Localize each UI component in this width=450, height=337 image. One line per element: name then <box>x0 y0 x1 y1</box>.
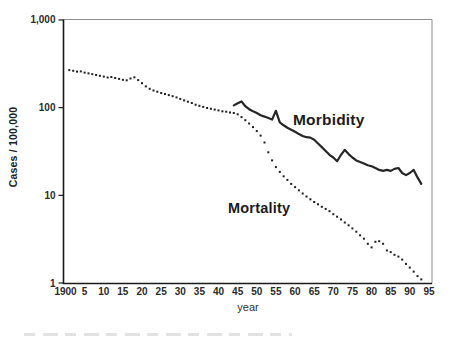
axis-lines <box>64 20 433 284</box>
mortality-dot <box>110 76 112 78</box>
mortality-dot <box>233 112 235 114</box>
mortality-dot <box>275 166 277 168</box>
mortality-dot <box>141 82 143 84</box>
mortality-dot <box>371 246 373 248</box>
mortality-dot <box>271 159 273 161</box>
mortality-dot <box>382 243 384 245</box>
x-tick-label: 30 <box>175 286 187 297</box>
mortality-dot <box>355 231 357 233</box>
mortality-dot <box>91 73 93 75</box>
mortality-dot <box>218 109 220 111</box>
mortality-dot <box>340 219 342 221</box>
mortality-dot <box>72 70 74 72</box>
mortality-dot <box>237 113 239 115</box>
x-tick-label: 1900 <box>54 286 77 297</box>
mortality-dot <box>244 119 246 121</box>
mortality-dot <box>202 106 204 108</box>
mortality-dot <box>80 70 82 72</box>
mortality-dot <box>160 92 162 94</box>
mortality-dot <box>417 275 419 277</box>
mortality-dot <box>351 227 353 229</box>
mortality-dot <box>397 256 399 258</box>
mortality-dot <box>302 193 304 195</box>
mortality-dot <box>325 208 327 210</box>
y-axis-title: Cases / 100,000 <box>7 87 21 207</box>
mortality-dot <box>221 110 223 112</box>
mortality-dot <box>241 116 243 118</box>
mortality-dot <box>99 75 101 77</box>
mortality-dot <box>359 234 361 236</box>
mortality-dot <box>267 151 269 153</box>
mortality-dot <box>286 179 288 181</box>
mortality-dot <box>187 101 189 103</box>
mortality-dot <box>290 183 292 185</box>
x-tick-label: 20 <box>136 286 148 297</box>
x-tick-label: 75 <box>347 286 359 297</box>
mortality-dot <box>378 240 380 242</box>
mortality-dot <box>76 71 78 73</box>
mortality-dot <box>168 94 170 96</box>
mortality-series-label: Mortality <box>228 200 290 216</box>
y-tick-label: 100 <box>39 102 56 113</box>
plot-frame <box>64 20 433 284</box>
clipped-caption-remnant <box>24 333 292 336</box>
x-tick-label: 25 <box>156 286 168 297</box>
mortality-dot <box>264 142 266 144</box>
mortality-dot <box>420 278 422 280</box>
mortality-dot <box>68 69 70 71</box>
mortality-dot <box>176 96 178 98</box>
mortality-dot <box>336 216 338 218</box>
x-tick-label: 10 <box>98 286 110 297</box>
x-tick-label: 65 <box>309 286 321 297</box>
mortality-dot <box>114 77 116 79</box>
mortality-dot <box>229 112 231 114</box>
mortality-dot <box>321 206 323 208</box>
mortality-dot <box>332 213 334 215</box>
mortality-dot <box>313 201 315 203</box>
x-axis-title: year <box>227 301 269 313</box>
x-tick-label: 5 <box>82 286 88 297</box>
mortality-dot <box>198 105 200 107</box>
mortality-dot <box>367 243 369 245</box>
mortality-dot <box>172 95 174 97</box>
mortality-dot <box>256 130 258 132</box>
x-tick-label: 15 <box>117 286 129 297</box>
x-tick-label: 70 <box>328 286 340 297</box>
mortality-dot <box>164 93 166 95</box>
mortality-dot <box>390 251 392 253</box>
mortality-dot <box>409 267 411 269</box>
chart-figure: 1,00010010119005101520253035404550556065… <box>0 0 450 337</box>
mortality-dot <box>195 104 197 106</box>
morbidity-series-label: Morbidity <box>293 111 365 129</box>
mortality-dot <box>118 78 120 80</box>
mortality-dot <box>329 210 331 212</box>
mortality-dot <box>122 79 124 81</box>
mortality-dot <box>84 72 86 74</box>
mortality-dot <box>317 203 319 205</box>
mortality-dot <box>348 224 350 226</box>
mortality-dot <box>252 126 254 128</box>
mortality-dot <box>386 250 388 252</box>
x-tick-labels: 1900510152025303540455055606570758085909… <box>54 286 435 297</box>
x-tick-label: 40 <box>213 286 225 297</box>
mortality-dot <box>298 189 300 191</box>
y-tick-label: 1,000 <box>30 14 55 25</box>
mortality-dot <box>126 79 128 81</box>
mortality-dots <box>68 69 422 280</box>
mortality-dot <box>394 254 396 256</box>
x-tick-label: 90 <box>404 286 416 297</box>
mortality-dot <box>283 175 285 177</box>
mortality-dot <box>130 78 132 80</box>
mortality-dot <box>309 198 311 200</box>
mortality-dot <box>210 108 212 110</box>
x-tick-label: 60 <box>289 286 301 297</box>
mortality-dot <box>214 109 216 111</box>
mortality-dot <box>183 99 185 101</box>
mortality-dot <box>260 135 262 137</box>
x-tick-label: 55 <box>270 286 282 297</box>
x-tick-label: 80 <box>366 286 378 297</box>
mortality-dot <box>191 102 193 104</box>
x-tick-label: 45 <box>232 286 244 297</box>
x-tick-label: 50 <box>251 286 263 297</box>
mortality-dot <box>225 111 227 113</box>
